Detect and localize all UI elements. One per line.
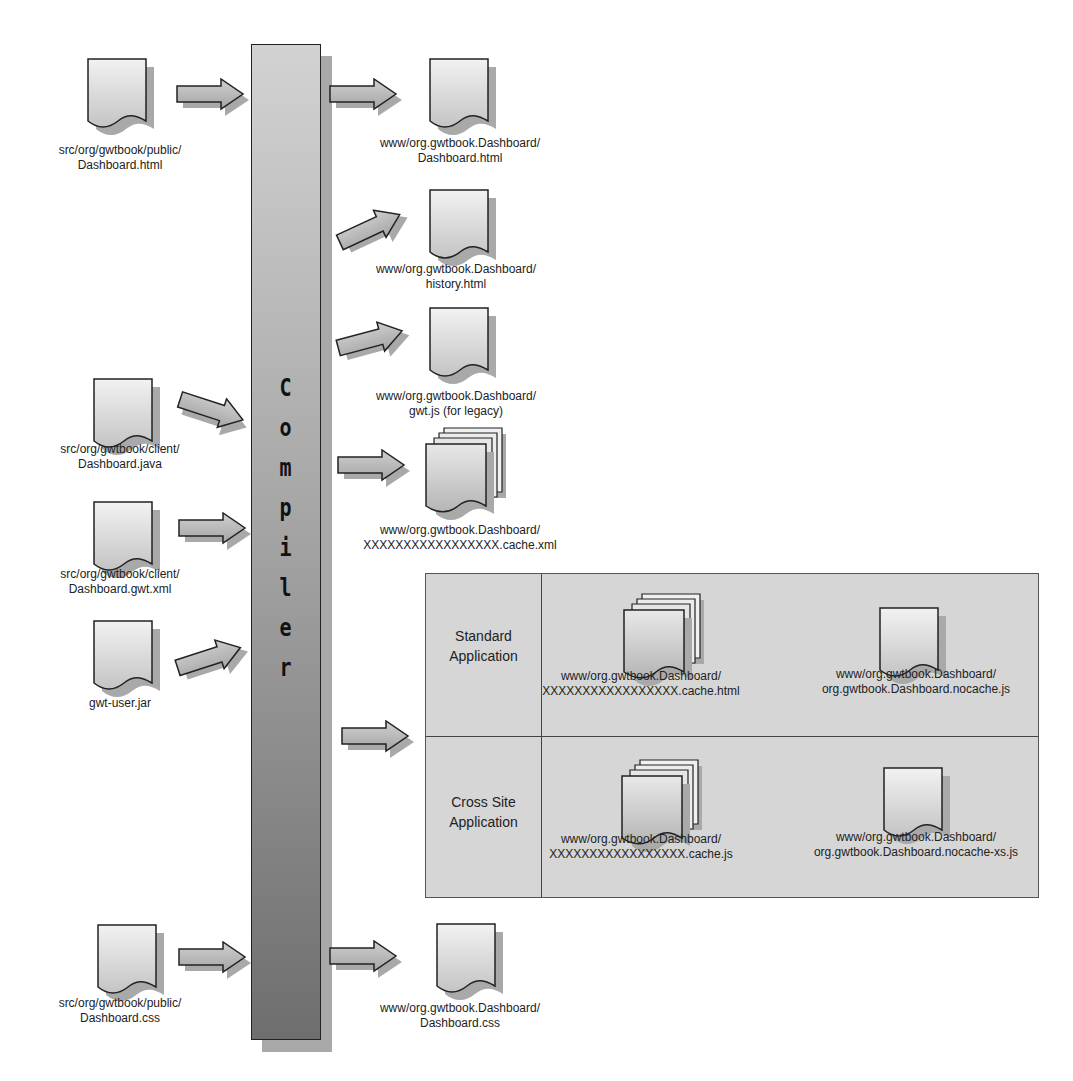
output-doc-icon-dashboard-html bbox=[428, 57, 498, 137]
arrow-icon bbox=[331, 195, 420, 265]
row-label-standard: StandardApplication bbox=[426, 626, 541, 666]
input-doc-icon-dashboard-css bbox=[96, 923, 166, 1003]
input-label-dashboard-gwt-xml: src/org/gwtbook/client/Dashboard.gwt.xml bbox=[40, 567, 200, 597]
compiler-letter: o bbox=[280, 408, 292, 448]
compiler-letter: p bbox=[280, 488, 292, 528]
output-doc-icon-dashboard-css bbox=[435, 922, 505, 1002]
compiler-letter: l bbox=[280, 568, 292, 608]
arrow-icon bbox=[332, 312, 420, 371]
input-doc-icon-gwt-user-jar bbox=[92, 619, 162, 699]
arrow-icon bbox=[328, 78, 408, 118]
input-label-dashboard-html: src/org/gwtbook/public/Dashboard.html bbox=[40, 143, 200, 173]
output-label-cache-xml: www/org.gwtbook.Dashboard/XXXXXXXXXXXXXX… bbox=[360, 523, 560, 553]
arrow-icon bbox=[171, 629, 259, 692]
application-variants-panel: StandardApplication Cross SiteApplicatio… bbox=[425, 573, 1039, 898]
output-doc-icon-gwt-js bbox=[428, 306, 498, 386]
output-label-dashboard-css: www/org.gwtbook.Dashboard/Dashboard.css bbox=[370, 1001, 550, 1031]
label-cache-html: www/org.gwtbook.Dashboard/XXXXXXXXXXXXXX… bbox=[541, 669, 741, 699]
label-cache-js: www/org.gwtbook.Dashboard/XXXXXXXXXXXXXX… bbox=[541, 832, 741, 862]
arrow-icon bbox=[177, 941, 257, 981]
compiler-letter: m bbox=[280, 448, 292, 488]
output-label-gwt-js: www/org.gwtbook.Dashboard/gwt.js (for le… bbox=[366, 389, 546, 419]
output-doc-icon-history-html bbox=[428, 188, 498, 268]
compiler-letter: C bbox=[280, 368, 292, 408]
output-label-dashboard-html: www/org.gwtbook.Dashboard/Dashboard.html bbox=[370, 136, 550, 166]
row-label-cross-site: Cross SiteApplication bbox=[426, 792, 541, 832]
arrow-icon bbox=[171, 384, 259, 447]
compiler-box: C o m p i l e r bbox=[251, 44, 321, 1040]
compiler-letter: i bbox=[280, 528, 292, 568]
output-doc-stack-icon-cache-xml bbox=[424, 426, 514, 526]
compiler-letter: r bbox=[280, 648, 292, 688]
panel-divider-horizontal bbox=[426, 736, 1038, 737]
arrow-icon bbox=[177, 512, 257, 552]
arrow-icon bbox=[175, 78, 255, 118]
output-label-history-html: www/org.gwtbook.Dashboard/history.html bbox=[366, 262, 546, 292]
label-nocache-xs-js: www/org.gwtbook.Dashboard/org.gwtbook.Da… bbox=[801, 830, 1031, 860]
arrow-icon bbox=[336, 449, 416, 489]
compiler-letter: e bbox=[280, 608, 292, 648]
arrow-icon bbox=[328, 940, 408, 980]
arrow-icon bbox=[340, 720, 420, 760]
input-label-dashboard-java: src/org/gwtbook/client/Dashboard.java bbox=[40, 442, 200, 472]
input-doc-icon-dashboard-html bbox=[86, 57, 156, 137]
input-label-gwt-user-jar: gwt-user.jar bbox=[40, 696, 200, 711]
compiler-label: C o m p i l e r bbox=[252, 368, 320, 688]
label-nocache-js: www/org.gwtbook.Dashboard/ www/org.gwtbo… bbox=[811, 667, 1021, 697]
input-label-dashboard-css: src/org/gwtbook/public/Dashboard.css bbox=[40, 996, 200, 1026]
